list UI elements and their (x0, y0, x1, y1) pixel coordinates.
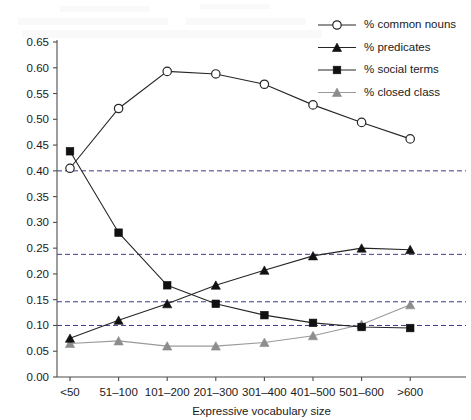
y-tick-label-12: 0.60 (27, 62, 49, 74)
y-tick-label-5: 0.25 (27, 242, 49, 254)
scan-artifact-band (200, 4, 270, 9)
data-point (211, 281, 220, 289)
data-point (66, 147, 74, 155)
data-point (66, 164, 74, 172)
data-point (114, 104, 122, 112)
legend: % common nouns% predicates% social terms… (318, 18, 456, 98)
reference-lines (57, 171, 466, 326)
x-tick-label-7: >600 (397, 386, 423, 398)
x-tick-label-5: 401–500 (291, 386, 336, 398)
legend-label-0: % common nouns (364, 18, 456, 30)
y-tick-label-6: 0.30 (27, 216, 49, 228)
data-point (212, 300, 220, 308)
data-point (309, 101, 317, 109)
data-point (406, 135, 414, 143)
y-tick-label-8: 0.40 (27, 165, 49, 177)
legend-label-3: % closed class (364, 86, 440, 98)
chart-canvas: 0.000.050.100.150.200.250.300.350.400.45… (0, 0, 471, 420)
y-tick-label-10: 0.50 (27, 113, 49, 125)
data-point (115, 229, 123, 237)
data-point (65, 334, 74, 342)
y-tick-label-3: 0.15 (27, 294, 49, 306)
data-point (212, 70, 220, 78)
y-tick-label-4: 0.20 (27, 268, 49, 280)
data-point (358, 323, 366, 331)
x-tick-label-4: 301–400 (242, 386, 287, 398)
data-point (163, 299, 172, 307)
series-common-nouns (66, 67, 415, 172)
y-tick-label-1: 0.05 (27, 345, 49, 357)
x-axis-title: Expressive vocabulary size (192, 405, 331, 417)
legend-label-1: % predicates (364, 41, 431, 53)
x-tick-label-1: 51–100 (99, 386, 137, 398)
data-point (406, 324, 414, 332)
line-chart: 0.000.050.100.150.200.250.300.350.400.45… (0, 0, 471, 420)
y-tick-label-7: 0.35 (27, 191, 49, 203)
scan-artifact-band (22, 30, 322, 38)
y-tick-label-11: 0.55 (27, 88, 49, 100)
data-point (260, 266, 269, 274)
scan-artifact-band (186, 18, 306, 25)
data-point (260, 80, 268, 88)
series-social-terms (66, 147, 414, 331)
y-tick-label-0: 0.00 (27, 371, 49, 383)
data-point (163, 281, 171, 289)
x-tick-label-2: 101–200 (145, 386, 190, 398)
y-tick-label-13: 0.65 (27, 36, 49, 48)
scan-artifact (18, 4, 322, 38)
data-point (357, 118, 365, 126)
y-tick-label-2: 0.10 (27, 319, 49, 331)
scan-artifact-band (18, 18, 168, 25)
legend-marker-2 (333, 66, 341, 74)
x-tick-label-3: 201–300 (193, 386, 238, 398)
y-tick-label-9: 0.45 (27, 139, 49, 151)
legend-marker-0 (333, 21, 341, 29)
data-point (261, 311, 269, 319)
x-tick-label-0: <50 (60, 386, 80, 398)
data-point (163, 67, 171, 75)
legend-label-2: % social terms (364, 63, 439, 75)
x-tick-label-6: 501–600 (339, 386, 384, 398)
data-point (309, 319, 317, 327)
data-point (114, 316, 123, 324)
scan-artifact-band (60, 6, 150, 12)
